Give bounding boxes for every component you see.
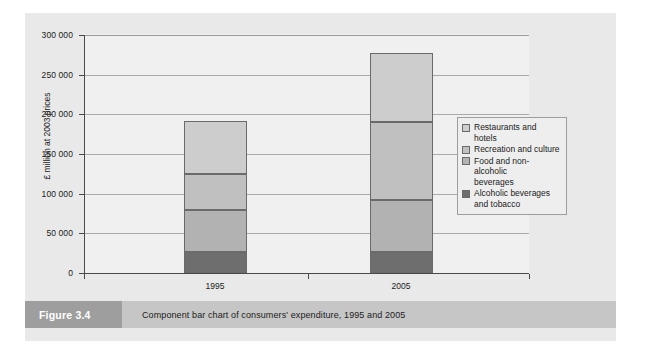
y-axis-tick-label: 50 000 (46, 228, 73, 238)
legend-swatch (462, 190, 470, 198)
y-axis-line (84, 35, 85, 274)
bar-segment (370, 53, 433, 122)
legend-swatch (462, 146, 470, 154)
legend-label: Restaurants and hotels (474, 122, 561, 143)
legend-item: Recreation and culture (462, 144, 561, 155)
x-axis-label-1995: 1995 (185, 281, 245, 291)
gridline (84, 233, 529, 234)
bar-2005 (370, 35, 433, 273)
y-axis-tick-label: 300 000 (42, 30, 73, 40)
figure-panel: 050 000100 000150 000200 000250 000300 0… (25, 13, 616, 341)
bar-segment (370, 200, 433, 252)
bar-1995 (184, 35, 247, 273)
figure-caption-text: Component bar chart of consumers' expend… (122, 310, 405, 320)
figure-number: Figure 3.4 (25, 301, 122, 328)
bar-segment (184, 252, 247, 273)
legend-label: Alcoholic beverages and tobacco (474, 188, 550, 209)
legend-item: Food and non-alcoholic beverages (462, 156, 561, 188)
y-axis-title: £ million at 2003 prices (42, 76, 52, 196)
x-axis-label-2005: 2005 (371, 281, 431, 291)
gridline (84, 35, 529, 36)
bar-segment (184, 121, 247, 174)
bar-segment (370, 122, 433, 200)
legend-label: Recreation and culture (474, 144, 560, 155)
bar-segment (184, 210, 247, 253)
y-axis-tick-label: 0 (68, 268, 73, 278)
gridline (84, 114, 529, 115)
gridline (84, 75, 529, 76)
figure-caption-bar: Figure 3.4 Component bar chart of consum… (25, 301, 616, 328)
chart-legend: Restaurants and hotelsRecreation and cul… (457, 117, 567, 215)
x-axis-tick (84, 274, 85, 279)
legend-item: Restaurants and hotels (462, 122, 561, 143)
bar-segment (184, 174, 247, 210)
legend-label: Food and non-alcoholic beverages (474, 156, 561, 188)
x-axis-tick (308, 274, 309, 279)
figure-root: 050 000100 000150 000200 000250 000300 0… (0, 0, 645, 356)
x-axis-line (84, 273, 529, 274)
x-axis-tick (529, 274, 530, 279)
legend-item: Alcoholic beverages and tobacco (462, 188, 561, 209)
legend-swatch (462, 157, 470, 165)
bar-segment (370, 252, 433, 273)
legend-swatch (462, 124, 470, 132)
